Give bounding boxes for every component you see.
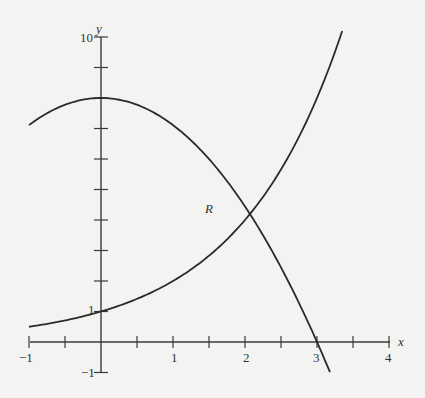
x-tick-label-2: 2 (243, 350, 250, 365)
region-label: R (204, 201, 213, 216)
x-tick-label-3: 3 (313, 350, 320, 365)
exponential-curve (29, 31, 342, 327)
x-tick-label-1: 1 (171, 350, 178, 365)
chart-plot: x y R −1 1 2 3 4 1 10 −1 (0, 0, 425, 398)
y-tick-label-1: 1 (88, 302, 95, 317)
y-axis-label: y (94, 21, 102, 36)
x-tick-label-4: 4 (385, 350, 392, 365)
x-tick-label-neg1: −1 (19, 350, 33, 365)
y-tick-label-10: 10 (80, 30, 93, 45)
x-axis-label: x (397, 334, 404, 349)
parabola-curve (29, 98, 330, 372)
y-tick-label-neg1: −1 (81, 365, 95, 380)
